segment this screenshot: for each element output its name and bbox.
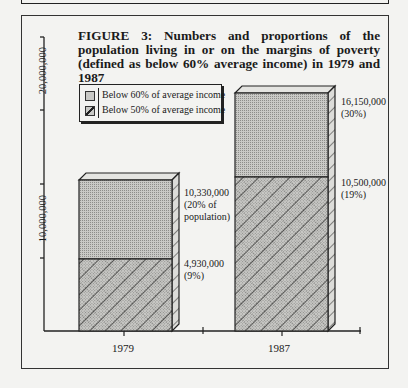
legend-item-below-60: Below 60% of average income	[80, 88, 221, 102]
figure-title: FIGURE 3: Numbers and proportions of the…	[78, 29, 380, 85]
x-label-1979: 1979	[112, 342, 134, 354]
annotation-1979-below-50: 4,930,000 (9%)	[184, 258, 224, 282]
chart-legend: Below 60% of average income Below 50% of…	[79, 84, 222, 122]
bar-1987	[235, 86, 335, 331]
annotation-1987-below-50: 10,500,000 (19%)	[341, 177, 386, 201]
y-tick-label-20m: 20,000,000	[37, 31, 48, 111]
annotation-1979-below-60: 10,330,000 (20% of population)	[184, 187, 230, 223]
bar-1979	[79, 173, 179, 331]
hatch-swatch-icon	[85, 106, 95, 116]
legend-item-below-50: Below 50% of average income	[80, 103, 221, 117]
y-tick-label-10m: 10,000,000	[37, 179, 48, 259]
x-label-1987: 1987	[268, 342, 290, 354]
dotted-swatch-icon	[85, 91, 95, 101]
annotation-1987-below-60: 16,150,000 (30%)	[341, 96, 386, 120]
